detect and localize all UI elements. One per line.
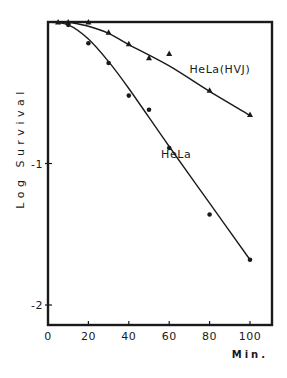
y-axis-label: Log Survival [14,87,27,209]
x-tick-label: 0 [44,330,52,343]
survival-chart: 020406080100-1-2 Min. Log Survival HeLa(… [0,0,287,378]
chart-labels: Min. Log Survival HeLa(HVJ)HeLa [14,63,268,360]
x-tick-label: 80 [202,330,217,343]
series-label-hela-hvj: HeLa(HVJ) [189,63,250,76]
data-point-hela [207,212,212,217]
data-point-hela [127,93,132,98]
y-tick-label: -1 [31,158,43,171]
data-points [55,19,253,262]
x-tick-label: 20 [81,330,96,343]
x-tick-label: 100 [239,330,262,343]
data-point-hela [147,107,152,112]
x-tick-label: 40 [121,330,136,343]
x-tick-label: 60 [162,330,177,343]
x-axis-label: Min. [232,349,268,360]
data-point-hela [106,61,111,66]
data-point-hela-hvj [166,51,172,57]
series-label-hela: HeLa [161,148,191,161]
data-point-hela [248,257,253,262]
data-point-hela [86,41,91,46]
y-tick-label: -2 [31,299,43,312]
axis-ticks: 020406080100-1-2 [31,158,261,344]
